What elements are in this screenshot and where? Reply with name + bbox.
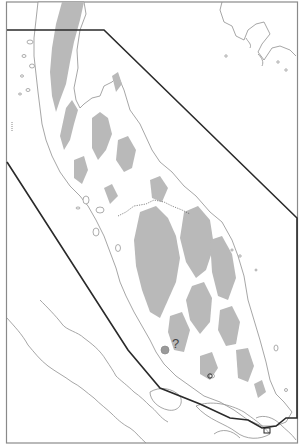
western-coast <box>7 318 146 443</box>
map-canvas: ? <box>0 0 299 446</box>
map: ? <box>0 0 299 446</box>
uncertain-marker: ? <box>172 336 179 351</box>
northeast-islands <box>246 38 263 66</box>
northeast-coast <box>220 2 296 60</box>
